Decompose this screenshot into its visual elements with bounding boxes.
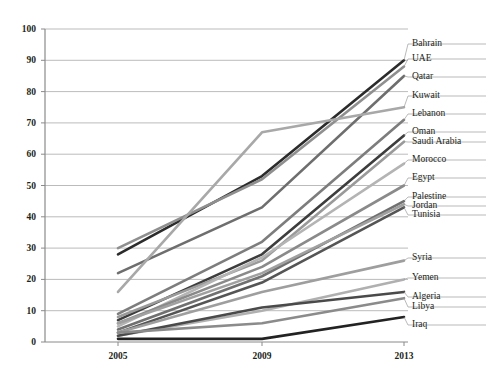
- legend-label-kuwait: Kuwait: [412, 90, 440, 101]
- legend-label-iraq: Iraq: [412, 319, 427, 330]
- y-tick-label: 70: [27, 118, 37, 128]
- legend-label-qatar: Qatar: [412, 71, 433, 82]
- legend-label-saudi-arabia: Saudi Arabia: [412, 136, 461, 147]
- legend-label-bahrain: Bahrain: [412, 38, 442, 49]
- legend-label-lebanon: Lebanon: [412, 108, 445, 119]
- series-lines: [118, 60, 404, 339]
- y-tick-label: 0: [31, 337, 36, 347]
- chart-figure: 1009080706050403020100 200520092013 Bahr…: [0, 0, 496, 384]
- legend-label-tunisia: Tunisia: [412, 209, 440, 220]
- legend-label-libya: Libya: [412, 301, 434, 312]
- legend-label-yemen: Yemen: [412, 272, 438, 283]
- x-tick-label-2013: 2013: [395, 351, 414, 361]
- x-tick-label-2009: 2009: [253, 351, 272, 361]
- x-tick-label-2005: 2005: [109, 351, 128, 361]
- y-tick-label: 30: [27, 243, 37, 253]
- y-tick-label: 10: [27, 306, 37, 316]
- y-tick-label: 40: [27, 212, 37, 222]
- y-tick-label: 60: [27, 149, 37, 159]
- y-tick-label: 50: [27, 181, 37, 191]
- series-line-kuwait: [118, 107, 404, 292]
- y-tick-label: 100: [22, 24, 36, 34]
- legend-label-uae: UAE: [412, 53, 432, 64]
- y-tick-label: 90: [27, 55, 37, 65]
- y-tick-label: 80: [27, 87, 37, 97]
- legend-label-oman: Oman: [412, 126, 435, 137]
- legend-label-algeria: Algeria: [412, 291, 441, 302]
- legend-label-egypt: Egypt: [412, 172, 435, 183]
- legend-leader-lines: [404, 44, 486, 325]
- legend-label-syria: Syria: [412, 252, 432, 263]
- legend-label-morocco: Morocco: [412, 154, 446, 165]
- y-tick-label: 20: [27, 274, 37, 284]
